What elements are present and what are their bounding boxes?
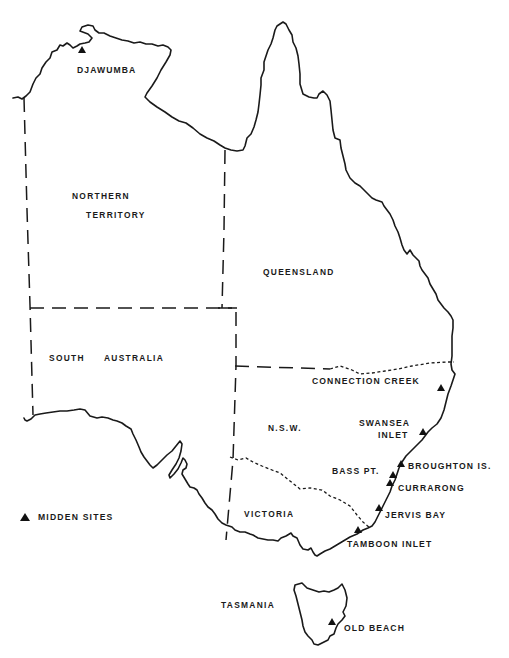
label-site-currarong: CURRARONG bbox=[398, 484, 465, 493]
site-marker-currarong bbox=[386, 479, 394, 486]
border-qld-nsw-river bbox=[330, 362, 454, 374]
site-marker-broughton-is bbox=[397, 460, 405, 467]
label-site-old-beach: OLD BEACH bbox=[344, 624, 405, 633]
label-site-swansea: SWANSEA bbox=[359, 419, 410, 428]
site-marker-djawumba bbox=[78, 46, 86, 53]
label-site-connection-creek: CONNECTION CREEK bbox=[312, 377, 420, 386]
label-australia: AUSTRALIA bbox=[104, 354, 164, 362]
label-nsw: N.S.W. bbox=[268, 424, 302, 432]
border-sa-east bbox=[218, 308, 236, 540]
label-northern-territory-line1: NORTHERN bbox=[72, 192, 130, 200]
site-marker-swansea-inlet bbox=[419, 428, 427, 435]
site-marker-bass-pt bbox=[389, 471, 397, 478]
site-marker-old-beach bbox=[328, 618, 336, 625]
label-northern-territory-line2: TERRITORY bbox=[86, 211, 146, 219]
site-marker-connection-creek bbox=[437, 384, 445, 391]
label-site-bass-pt: BASS PT. bbox=[332, 467, 379, 476]
label-site-djawumba: DJAWUMBA bbox=[77, 66, 136, 75]
tasmania-coastline bbox=[294, 583, 347, 645]
triangle-marker-icon bbox=[20, 513, 30, 521]
label-victoria: VICTORIA bbox=[244, 510, 294, 518]
australia-map bbox=[0, 0, 509, 658]
label-site-broughton-is: BROUGHTON IS. bbox=[408, 462, 491, 471]
label-site-inlet: INLET bbox=[378, 431, 408, 440]
label-site-tamboon-inlet: TAMBOON INLET bbox=[347, 540, 432, 549]
label-tasmania: TASMANIA bbox=[221, 601, 275, 609]
legend-label: MIDDEN SITES bbox=[38, 512, 114, 522]
border-qld-nsw bbox=[235, 366, 330, 369]
map-legend: MIDDEN SITES bbox=[20, 512, 114, 522]
border-nt-qld bbox=[222, 150, 225, 308]
label-site-jervis-bay: JERVIS BAY bbox=[385, 511, 446, 520]
label-south: SOUTH bbox=[49, 354, 85, 362]
border-wa bbox=[24, 98, 33, 415]
mainland-coastline bbox=[13, 22, 455, 556]
label-queensland: QUEENSLAND bbox=[263, 268, 335, 276]
site-marker-tamboon-inlet bbox=[354, 526, 362, 533]
